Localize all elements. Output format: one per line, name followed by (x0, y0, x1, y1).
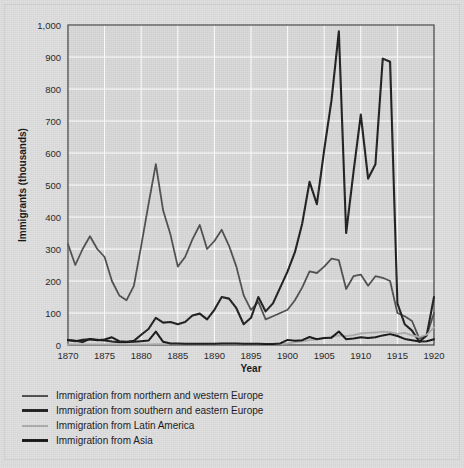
legend-color-swatch (22, 395, 48, 397)
legend-color-swatch (22, 409, 48, 412)
y-tick-label: 200 (45, 276, 61, 287)
x-axis-tick-labels: 1870187518801885189018951900190519101915… (57, 350, 444, 361)
x-tick-label: 1895 (240, 350, 261, 361)
legend-item[interactable]: Immigration from Asia (22, 433, 442, 448)
legend-color-swatch (22, 439, 48, 442)
y-axis-title: Immigrants (thousands) (17, 128, 28, 242)
immigration-line-chart-figure: 01002003004005006007008009001,000 187018… (0, 0, 464, 468)
y-tick-label: 1,000 (37, 20, 61, 31)
y-tick-label: 700 (45, 116, 61, 127)
y-tick-label: 100 (45, 308, 61, 319)
x-tick-label: 1870 (57, 350, 78, 361)
y-tick-label: 600 (45, 148, 61, 159)
y-tick-label: 500 (45, 180, 61, 191)
x-tick-label: 1920 (423, 350, 444, 361)
legend-item-label: Immigration from southern and eastern Eu… (56, 405, 263, 417)
legend-item[interactable]: Immigration from northern and western Eu… (22, 388, 442, 403)
x-tick-label: 1890 (204, 350, 225, 361)
y-axis-tick-labels: 01002003004005006007008009001,000 (37, 20, 61, 351)
legend-item[interactable]: Immigration from Latin America (22, 418, 442, 433)
x-tick-label: 1875 (94, 350, 115, 361)
x-tick-label: 1910 (350, 350, 371, 361)
x-tick-label: 1900 (277, 350, 298, 361)
y-tick-label: 0 (56, 340, 61, 351)
legend-item-label: Immigration from Asia (56, 435, 153, 447)
x-tick-label: 1915 (387, 350, 408, 361)
x-tick-label: 1905 (314, 350, 335, 361)
chart-legend: Immigration from northern and western Eu… (22, 388, 442, 448)
x-tick-label: 1880 (131, 350, 152, 361)
legend-color-swatch (22, 425, 48, 427)
y-tick-label: 300 (45, 244, 61, 255)
legend-item-label: Immigration from Latin America (56, 420, 194, 432)
legend-item[interactable]: Immigration from southern and eastern Eu… (22, 403, 442, 418)
y-tick-label: 800 (45, 84, 61, 95)
y-tick-label: 900 (45, 52, 61, 63)
y-tick-label: 400 (45, 212, 61, 223)
legend-item-label: Immigration from northern and western Eu… (56, 390, 263, 402)
x-tick-label: 1885 (167, 350, 188, 361)
x-axis-title: Year (240, 363, 261, 374)
